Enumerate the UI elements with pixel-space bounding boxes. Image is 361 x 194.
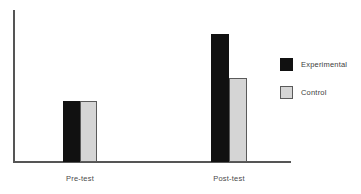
legend-item-control: Control: [280, 86, 347, 99]
legend-label-experimental: Experimental: [301, 60, 347, 69]
bar-post-test-control: [229, 78, 247, 162]
legend-label-control: Control: [301, 88, 327, 97]
bar-pre-test-experimental: [63, 101, 80, 162]
gray-swatch-icon: [280, 86, 293, 99]
bar-post-test-experimental: [211, 34, 229, 162]
black-swatch-icon: [280, 58, 293, 71]
legend-item-experimental: Experimental: [280, 58, 347, 71]
category-label-pre-test: Pre-test: [66, 174, 94, 183]
chart-legend: Experimental Control: [280, 58, 347, 114]
bar-group-pre-test: [63, 10, 97, 162]
bar-pre-test-control: [80, 101, 97, 162]
bar-chart: Pre-test Post-test Experimental Control: [0, 0, 361, 194]
plot-area: [13, 10, 291, 162]
bar-group-post-test: [211, 10, 247, 162]
category-label-post-test: Post-test: [213, 174, 244, 183]
